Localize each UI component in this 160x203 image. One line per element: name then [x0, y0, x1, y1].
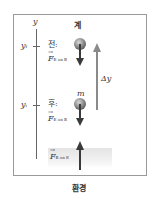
displacement-arrow-icon: [93, 43, 101, 110]
diagram-graphics: [0, 0, 160, 203]
ground-force-arrow-icon: [76, 141, 84, 170]
environment-label: 환경: [72, 182, 86, 193]
